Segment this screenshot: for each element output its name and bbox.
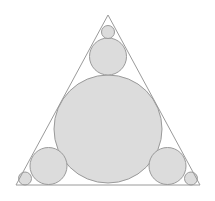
tiny-circle-bottom-right	[185, 172, 198, 185]
figure-canvas	[0, 0, 215, 201]
medium-circle-bottom-left	[30, 148, 67, 185]
circle-group	[19, 26, 198, 186]
circle-packing-diagram	[0, 0, 215, 201]
medium-circle-top	[90, 38, 127, 75]
incircle	[54, 75, 162, 183]
tiny-circle-bottom-left	[19, 172, 32, 185]
medium-circle-bottom-right	[149, 148, 186, 185]
tiny-circle-apex	[102, 26, 115, 39]
